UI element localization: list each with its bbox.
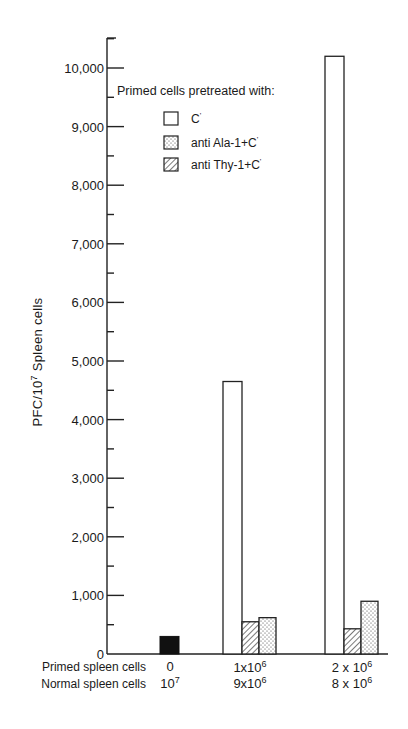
bar-open	[325, 56, 344, 654]
y-tick-label: 4,000	[71, 413, 104, 428]
axes	[107, 38, 388, 654]
legend-title: Primed cells pretreated with:	[117, 84, 275, 98]
bar-chart: 01,0002,0003,0004,0005,0006,0007,0008,00…	[0, 0, 408, 729]
x-row-primed: Primed spleen cells	[0, 660, 146, 676]
legend-swatch-open	[164, 112, 178, 125]
y-tick-label: 3,000	[71, 471, 104, 486]
y-ticks: 01,0002,0003,0004,0005,0006,0007,0008,00…	[64, 39, 124, 662]
x-cat-3-primed: 2 x 106	[332, 659, 372, 675]
y-tick-label: 7,000	[71, 237, 104, 252]
x-cat-2-normal: 9x106	[233, 675, 266, 691]
legend-label-c: C'	[191, 111, 201, 126]
bar-hatched	[344, 629, 361, 654]
bar-dotted	[259, 618, 276, 654]
legend-label-anti-thy: anti Thy-1+C'	[191, 157, 261, 172]
y-tick-label: 6,000	[71, 295, 104, 310]
legend-swatch-dotted	[164, 136, 178, 149]
y-tick-label: 10,000	[64, 61, 104, 76]
y-tick-label: 1,000	[71, 588, 104, 603]
x-cat-3-normal: 8 x 106	[332, 675, 372, 691]
x-cat-2-primed: 1x106	[233, 659, 266, 675]
legend-label-anti-ala: anti Ala-1+C'	[191, 135, 258, 150]
y-axis-label: PFC/107 Spleen cells	[29, 298, 45, 427]
legend-swatch-hatched	[164, 158, 178, 171]
x-cat-1-primed: 0	[166, 659, 173, 674]
x-row-normal: Normal spleen cells	[0, 677, 146, 693]
y-tick-label: 5,000	[71, 354, 104, 369]
y-tick-label: 9,000	[71, 120, 104, 135]
y-tick-label: 8,000	[71, 178, 104, 193]
bar-hatched	[242, 622, 259, 654]
bar-open	[223, 382, 242, 654]
x-cat-1-normal: 107	[160, 675, 179, 691]
bar-control	[160, 636, 179, 654]
y-tick-label: 2,000	[71, 530, 104, 545]
legend	[164, 112, 178, 171]
bar-dotted	[361, 601, 378, 654]
